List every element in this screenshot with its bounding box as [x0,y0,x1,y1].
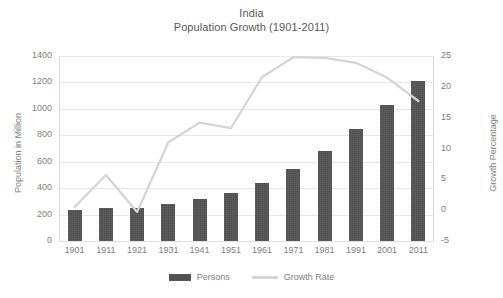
y-axis-right-title: Growth Percentage [488,98,498,208]
y-axis-left-tick-label: 1400 [18,50,52,60]
y-axis-left-tick-label: 0 [18,235,52,245]
y-axis-right-tick-label: -5 [441,235,475,245]
x-axis-tick-label: 1941 [190,245,210,255]
y-axis-left-tick-label: 200 [18,209,52,219]
plot-area [59,56,434,241]
plot-frame [59,56,434,241]
chart-title: India Population Growth (1901-2011) [0,6,503,34]
chart-legend: Persons Growth Rate [0,272,503,282]
y-axis-right-ticks: 2520151050-5 [441,56,475,241]
y-axis-right-tick-label: 25 [441,50,475,60]
x-axis-tick-label: 1991 [346,245,366,255]
legend-label-growth-rate: Growth Rate [284,272,335,282]
x-axis-ticks: 1901191119211931194119511961197119811991… [59,245,434,259]
y-axis-right-tick-label: 0 [441,204,475,214]
chart-container: India Population Growth (1901-2011) Popu… [0,0,503,298]
chart-title-line-1: India [0,6,503,20]
y-axis-left-tick-label: 1200 [18,76,52,86]
y-axis-right-tick-label: 20 [441,81,475,91]
x-axis-tick-label: 1921 [127,245,147,255]
chart-title-line-2: Population Growth (1901-2011) [0,20,503,34]
y-axis-right-tick-label: 10 [441,143,475,153]
y-axis-left-tick-label: 400 [18,182,52,192]
y-axis-left-ticks: 1400120010008006004002000 [18,56,52,241]
legend-label-persons: Persons [197,272,230,282]
gridline [59,241,434,242]
y-axis-left-tick-label: 1000 [18,103,52,113]
legend-bar-swatch-icon [169,274,191,281]
legend-item-growth-rate[interactable]: Growth Rate [252,272,335,282]
x-axis-tick-label: 1951 [221,245,241,255]
x-axis-tick-label: 2011 [409,245,428,255]
legend-line-swatch-icon [252,276,278,279]
x-axis-tick-label: 1971 [283,245,303,255]
x-axis-tick-label: 1901 [65,245,85,255]
y-axis-right-tick-label: 15 [441,112,475,122]
y-axis-left-tick-label: 600 [18,156,52,166]
y-axis-left-tick-label: 800 [18,129,52,139]
x-axis-tick-label: 1931 [158,245,178,255]
x-axis-tick-label: 2001 [377,245,397,255]
x-axis-tick-label: 1961 [252,245,272,255]
y-axis-right-tick-label: 5 [441,173,475,183]
x-axis-tick-label: 1981 [315,245,335,255]
x-axis-tick-label: 1911 [96,245,115,255]
legend-item-persons[interactable]: Persons [169,272,230,282]
